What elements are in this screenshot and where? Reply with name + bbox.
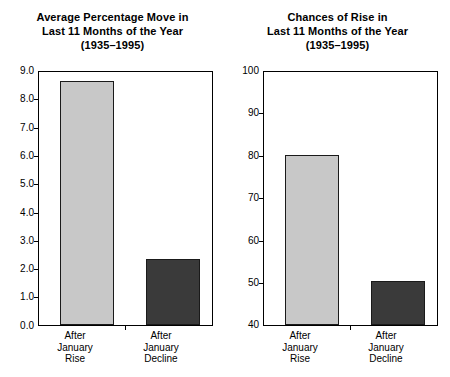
x-axis-category-label-after-january-rise: After January Rise xyxy=(48,330,102,365)
y-axis-tick-label-3.0: 3.0 xyxy=(2,236,34,246)
y-axis-tick-label-4.0: 4.0 xyxy=(2,208,34,218)
cat-left-1-line-2: January xyxy=(48,342,102,354)
y-axis-tick-label-100: 100 xyxy=(227,66,259,76)
chart-panel-chances-of-rise: Chances of Rise in Last 11 Months of the… xyxy=(225,0,450,377)
y-axis-tick-label-70: 70 xyxy=(227,193,259,203)
cat-right-2-line-2: January xyxy=(359,342,413,354)
chart-title-right-line-1: Chances of Rise in xyxy=(225,10,450,24)
y-axis-tick-label-40: 40 xyxy=(227,320,259,330)
plot-area-right xyxy=(263,71,438,326)
chart-title-left-line-3: (1935–1995) xyxy=(0,38,225,52)
bar-after-january-decline[interactable] xyxy=(371,281,425,325)
chart-title-right-line-3: (1935–1995) xyxy=(225,38,450,52)
x-axis-category-label-after-january-decline: After January Decline xyxy=(134,330,188,365)
x-axis-category-label-after-january-decline: After January Decline xyxy=(359,330,413,365)
x-axis-tick-mark-center xyxy=(350,326,351,330)
chart-title-left: Average Percentage Move in Last 11 Month… xyxy=(0,10,225,52)
chart-title-right-line-2: Last 11 Months of the Year xyxy=(225,24,450,38)
figure-canvas: Average Percentage Move in Last 11 Month… xyxy=(0,0,450,377)
cat-left-2-line-3: Decline xyxy=(134,353,188,365)
cat-right-1-line-3: Rise xyxy=(273,353,327,365)
cat-left-1-line-3: Rise xyxy=(48,353,102,365)
cat-left-2-line-1: After xyxy=(134,330,188,342)
y-axis-tick-label-8.0: 8.0 xyxy=(2,94,34,104)
chart-title-left-line-1: Average Percentage Move in xyxy=(0,10,225,24)
chart-panel-average-percentage-move: Average Percentage Move in Last 11 Month… xyxy=(0,0,225,377)
plot-area-left xyxy=(38,71,213,326)
cat-right-1-line-1: After xyxy=(273,330,327,342)
x-axis-tick-mark-center xyxy=(125,326,126,330)
cat-right-2-line-1: After xyxy=(359,330,413,342)
y-axis-tick-label-90: 90 xyxy=(227,108,259,118)
cat-left-1-line-1: After xyxy=(48,330,102,342)
y-axis-tick-label-5.0: 5.0 xyxy=(2,179,34,189)
chart-title-left-line-2: Last 11 Months of the Year xyxy=(0,24,225,38)
y-axis-tick-label-6.0: 6.0 xyxy=(2,151,34,161)
y-axis-tick-label-2.0: 2.0 xyxy=(2,264,34,274)
y-axis-tick-label-0.0: 0.0 xyxy=(2,321,34,331)
y-axis-tick-label-80: 80 xyxy=(227,151,259,161)
y-axis-tick-label-60: 60 xyxy=(227,236,259,246)
y-axis-tick-label-1.0: 1.0 xyxy=(2,292,34,302)
bar-after-january-rise[interactable] xyxy=(60,81,114,326)
y-axis-tick-label-50: 50 xyxy=(227,278,259,288)
y-axis-tick-label-9.0: 9.0 xyxy=(2,66,34,76)
x-axis-category-label-after-january-rise: After January Rise xyxy=(273,330,327,365)
bar-after-january-rise[interactable] xyxy=(285,155,339,325)
y-axis-tick-label-7.0: 7.0 xyxy=(2,123,34,133)
cat-right-2-line-3: Decline xyxy=(359,353,413,365)
bar-after-january-decline[interactable] xyxy=(146,259,200,325)
chart-title-right: Chances of Rise in Last 11 Months of the… xyxy=(225,10,450,52)
cat-left-2-line-2: January xyxy=(134,342,188,354)
cat-right-1-line-2: January xyxy=(273,342,327,354)
